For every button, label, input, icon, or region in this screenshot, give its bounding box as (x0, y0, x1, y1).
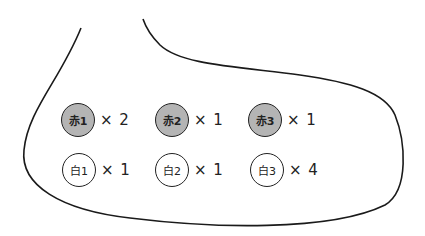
white-ball: 白1 (62, 153, 96, 187)
ball-count: × 1 (101, 161, 131, 179)
ball-item: 白1× 1 (62, 153, 131, 187)
ball-count: × 1 (287, 111, 317, 129)
red-ball: 赤1 (61, 103, 95, 137)
ball-count: × 2 (100, 111, 130, 129)
ball-count: × 4 (289, 161, 319, 179)
ball-item: 赤1× 2 (61, 103, 130, 137)
ball-count: × 1 (194, 111, 224, 129)
ball-item: 白3× 4 (250, 153, 319, 187)
ball-item: 赤2× 1 (155, 103, 224, 137)
ball-count: × 1 (194, 161, 224, 179)
ball-item: 白2× 1 (155, 153, 224, 187)
red-ball: 赤2 (155, 103, 189, 137)
white-ball: 白3 (250, 153, 284, 187)
red-ball: 赤3 (248, 103, 282, 137)
ball-item: 赤3× 1 (248, 103, 317, 137)
white-ball: 白2 (155, 153, 189, 187)
